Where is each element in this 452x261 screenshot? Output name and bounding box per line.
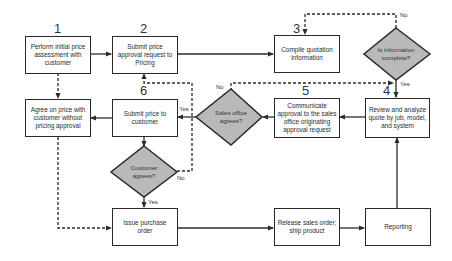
edge-info-no-s3 xyxy=(305,14,396,34)
step-number-3: 3 xyxy=(293,22,300,35)
sales-no-tag: No xyxy=(216,84,224,91)
step-number-6: 6 xyxy=(140,84,147,97)
step-4-label: Review and analyze quote by job, model, … xyxy=(368,106,427,130)
issue-po-label: Issue purchase order xyxy=(115,219,175,235)
step-4-box: Review and analyze quote by job, model, … xyxy=(365,98,430,138)
step-1-label: Perform initial price assessment with cu… xyxy=(28,43,88,67)
sales-yes-tag: Yes xyxy=(179,106,189,113)
decision-sales-label: Sales office agrees? xyxy=(212,103,250,131)
step-6-box: Submit price to customer xyxy=(112,99,178,137)
reporting-box: Reporting xyxy=(365,208,431,246)
agree-price-box: Agree on price with customer without pri… xyxy=(25,99,91,137)
release-order-label: Release sales order; ship product xyxy=(277,219,337,235)
step-6-label: Submit price to customer xyxy=(115,110,175,126)
customer-no-tag: No xyxy=(177,175,185,182)
step-1-box: Perform initial price assessment with cu… xyxy=(25,36,91,74)
step-number-5: 5 xyxy=(302,84,309,97)
info-yes-tag: Yes xyxy=(400,81,410,88)
agree-price-label: Agree on price with customer without pri… xyxy=(28,106,88,130)
release-order-box: Release sales order; ship product xyxy=(274,208,340,246)
edge-agree-po xyxy=(58,137,111,228)
reporting-label: Reporting xyxy=(384,223,412,231)
issue-po-box: Issue purchase order xyxy=(112,208,178,246)
step-2-label: Submit price approval request to Pricing xyxy=(115,43,175,67)
step-number-2: 2 xyxy=(140,22,147,35)
customer-yes-tag: Yes xyxy=(148,199,158,206)
step-3-box: Compile quotation information xyxy=(274,35,340,73)
info-no-tag: No xyxy=(400,12,408,19)
edge-sales-no-s4 xyxy=(231,83,393,96)
step-2-box: Submit price approval request to Pricing xyxy=(112,36,178,74)
decision-info-label: Is information complete? xyxy=(374,38,418,70)
decision-customer-label: Customer agrees? xyxy=(124,160,164,184)
step-5-box: Communicate approval to the sales office… xyxy=(274,98,340,138)
step-3-label: Compile quotation information xyxy=(277,46,337,62)
step-number-4: 4 xyxy=(383,84,390,97)
step-number-1: 1 xyxy=(54,22,61,35)
step-5-label: Communicate approval to the sales office… xyxy=(277,102,337,134)
